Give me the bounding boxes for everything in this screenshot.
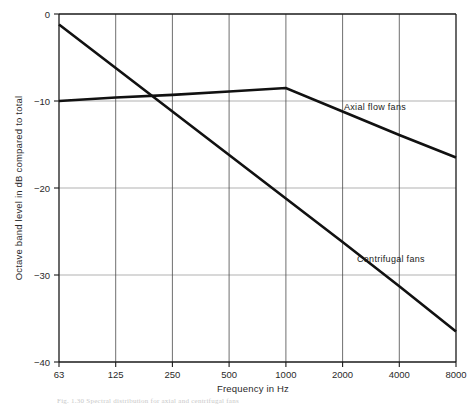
y-axis-ticks bbox=[54, 14, 59, 362]
xtick-label-8000: 8000 bbox=[445, 369, 466, 380]
figure-container: 0 −10 −20 −30 −40 63 125 250 500 1000 20… bbox=[0, 0, 476, 408]
ytick-label-minus10: −10 bbox=[34, 96, 50, 107]
ytick-label-0: 0 bbox=[45, 9, 50, 20]
xtick-label-250: 250 bbox=[164, 369, 180, 380]
series-label-centrifugal-fans: Centrifugal fans bbox=[357, 254, 425, 264]
xtick-label-4000: 4000 bbox=[389, 369, 410, 380]
x-axis-title: Frequency in Hz bbox=[217, 383, 289, 394]
xtick-label-500: 500 bbox=[221, 369, 237, 380]
ytick-label-minus40: −40 bbox=[34, 357, 50, 368]
xtick-label-125: 125 bbox=[108, 369, 124, 380]
y-axis-title: Octave band level in dB compared to tota… bbox=[13, 96, 24, 281]
ytick-label-minus20: −20 bbox=[34, 183, 50, 194]
figure-caption: Fig. 1.30 Spectral distribution for axia… bbox=[57, 396, 457, 407]
xtick-label-1000: 1000 bbox=[275, 369, 296, 380]
series-label-axial-flow-fans: Axial flow fans bbox=[344, 102, 406, 112]
fan-spectrum-chart: 0 −10 −20 −30 −40 63 125 250 500 1000 20… bbox=[0, 0, 476, 408]
xtick-label-2000: 2000 bbox=[332, 369, 353, 380]
xtick-label-63: 63 bbox=[54, 369, 65, 380]
ytick-label-minus30: −30 bbox=[34, 270, 50, 281]
x-axis-ticks bbox=[59, 362, 456, 367]
x-axis-tick-labels: 63 125 250 500 1000 2000 4000 8000 bbox=[54, 369, 467, 380]
y-axis-tick-labels: 0 −10 −20 −30 −40 bbox=[34, 9, 50, 368]
